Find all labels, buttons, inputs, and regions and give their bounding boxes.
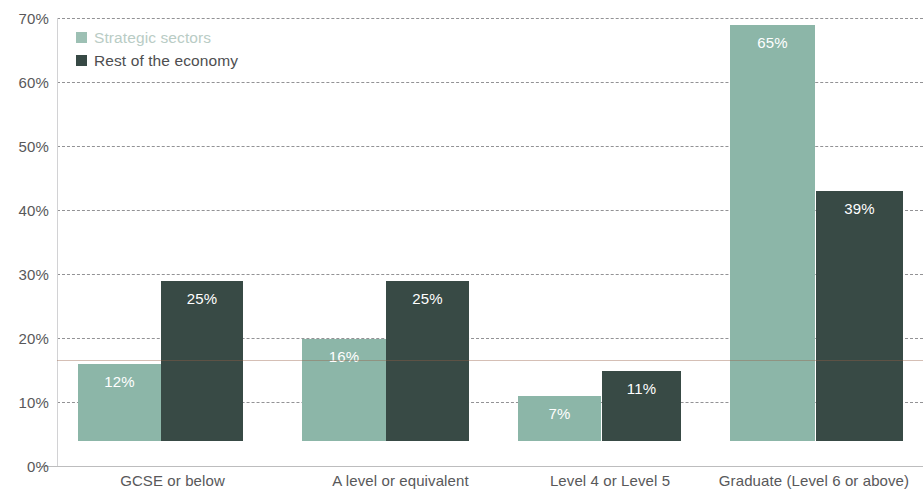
x-axis-category-label: GCSE or below (60, 472, 285, 489)
bar-rest-of-economy: 39% (816, 191, 903, 441)
x-axis-category-label: Level 4 or Level 5 (500, 472, 720, 489)
bar-rest-of-economy: 25% (386, 281, 469, 441)
bar-value-label: 16% (302, 348, 386, 365)
bar-strategic-sectors: 16% (302, 339, 386, 441)
legend-swatch-icon (76, 32, 87, 43)
y-axis-line (57, 18, 58, 466)
y-axis-tick-label: 20% (0, 330, 49, 347)
y-axis-tick-label: 70% (0, 10, 49, 27)
bar-value-label: 39% (816, 200, 903, 217)
y-axis-tick-label: 40% (0, 202, 49, 219)
bar-value-label: 11% (602, 380, 681, 397)
x-axis-category-label: A level or equivalent (288, 472, 513, 489)
bar-strategic-sectors: 12% (78, 364, 161, 441)
bar-chart: 70%60%50%40%30%20%10%0% 12%25%16%25%7%11… (0, 0, 923, 495)
y-axis-tick-label: 10% (0, 394, 49, 411)
bar-value-label: 12% (78, 373, 161, 390)
gridline (57, 18, 923, 19)
bar-value-label: 65% (730, 34, 815, 51)
bar-value-label: 25% (161, 290, 243, 307)
chart-legend: Strategic sectors Rest of the economy (76, 26, 238, 72)
bar-value-label: 25% (386, 290, 469, 307)
y-axis-tick-label: 30% (0, 266, 49, 283)
legend-label: Strategic sectors (94, 29, 211, 47)
legend-item-rest-of-the-economy: Rest of the economy (76, 49, 238, 72)
y-axis-tick-label: 0% (0, 458, 49, 475)
bar-strategic-sectors: 7% (518, 396, 601, 441)
legend-item-strategic-sectors: Strategic sectors (76, 26, 238, 49)
legend-label: Rest of the economy (94, 52, 238, 70)
y-axis-tick-label: 50% (0, 138, 49, 155)
y-axis-tick-label: 60% (0, 74, 49, 91)
bar-rest-of-economy: 25% (161, 281, 243, 441)
bar-rest-of-economy: 11% (602, 371, 681, 441)
legend-swatch-icon (76, 55, 87, 66)
bar-value-label: 7% (518, 405, 601, 422)
bar-strategic-sectors: 65% (730, 25, 815, 441)
gridline (40, 466, 923, 467)
x-axis-category-label: Graduate (Level 6 or above) (705, 472, 923, 489)
